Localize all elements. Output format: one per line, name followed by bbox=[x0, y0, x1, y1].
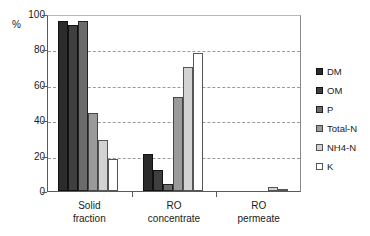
bar bbox=[68, 25, 78, 191]
legend-item-label: Total-N bbox=[327, 124, 357, 134]
y-axis-tick-label: 20 bbox=[5, 152, 45, 162]
bar bbox=[193, 53, 203, 191]
bar bbox=[268, 187, 278, 191]
plot-frame bbox=[47, 15, 301, 192]
legend-swatch-icon bbox=[316, 106, 323, 113]
legend-item-label: OM bbox=[327, 86, 342, 96]
y-axis-tick-label: 0 bbox=[5, 187, 45, 197]
bar bbox=[183, 67, 193, 191]
x-axis-group-separator bbox=[216, 192, 217, 197]
bar bbox=[88, 113, 98, 191]
legend: DMOMPTotal-NNH4-NK bbox=[316, 62, 370, 176]
legend-swatch-icon bbox=[316, 87, 323, 94]
x-axis-category-label-line: RO bbox=[209, 199, 309, 212]
bar bbox=[98, 140, 108, 191]
bar-group bbox=[143, 16, 203, 191]
x-axis-group-separator bbox=[132, 192, 133, 197]
x-axis-category-label: ROpermeate bbox=[209, 199, 309, 225]
bar bbox=[278, 189, 288, 191]
bar bbox=[78, 21, 88, 191]
bar bbox=[153, 170, 163, 191]
legend-item-label: DM bbox=[327, 67, 342, 77]
legend-item-dm[interactable]: DM bbox=[316, 62, 370, 81]
legend-item-label: NH4-N bbox=[327, 143, 356, 153]
plot-area bbox=[48, 16, 300, 191]
bar bbox=[163, 184, 173, 191]
y-axis-tick-label: 80 bbox=[5, 45, 45, 55]
legend-item-om[interactable]: OM bbox=[316, 81, 370, 100]
y-axis-unit-label: % bbox=[12, 20, 21, 30]
bar-group bbox=[228, 16, 288, 191]
legend-swatch-icon bbox=[316, 163, 323, 170]
y-axis-tick-mark bbox=[42, 192, 47, 193]
legend-item-nh4-n[interactable]: NH4-N bbox=[316, 138, 370, 157]
x-axis-category-label-line: permeate bbox=[209, 212, 309, 225]
legend-item-label: P bbox=[327, 105, 333, 115]
legend-item-p[interactable]: P bbox=[316, 100, 370, 119]
bar bbox=[58, 21, 68, 191]
y-axis-tick-label: 40 bbox=[5, 116, 45, 126]
bar bbox=[108, 159, 118, 191]
bar bbox=[143, 154, 153, 191]
legend-swatch-icon bbox=[316, 144, 323, 151]
legend-item-k[interactable]: K bbox=[316, 157, 370, 176]
legend-item-total-n[interactable]: Total-N bbox=[316, 119, 370, 138]
legend-item-label: K bbox=[327, 162, 333, 172]
legend-swatch-icon bbox=[316, 125, 323, 132]
bar-group bbox=[58, 16, 118, 191]
y-axis-tick-label: 100 bbox=[5, 10, 45, 20]
y-axis-tick-label: 60 bbox=[5, 81, 45, 91]
legend-swatch-icon bbox=[316, 68, 323, 75]
bar-chart-figure: % 020406080100 SolidfractionROconcentrat… bbox=[0, 0, 370, 236]
bar bbox=[173, 97, 183, 191]
